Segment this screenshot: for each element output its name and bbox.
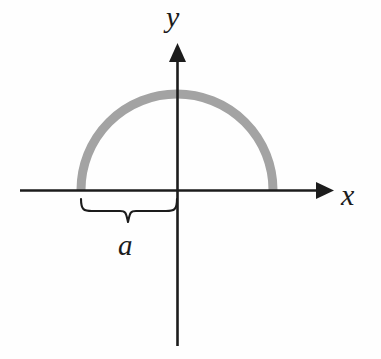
radius-brace [81,199,177,222]
y-axis-arrowhead-icon [169,43,186,62]
figure-canvas: x y a [0,0,381,359]
radius-label-a: a [118,231,133,260]
x-axis-label: x [341,180,354,210]
semicircle-diagram [0,0,381,359]
y-axis-label: y [166,2,179,32]
x-axis-arrowhead-icon [316,182,334,199]
